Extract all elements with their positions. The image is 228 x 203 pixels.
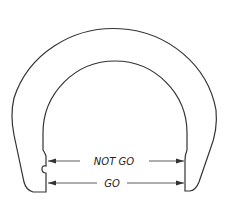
go-arrow-left xyxy=(48,181,56,186)
snap-gauge-diagram: NOT GO GO xyxy=(0,0,228,203)
not-go-arrow-left xyxy=(48,159,56,164)
not-go-arrow-right xyxy=(176,159,184,164)
go-arrow-right xyxy=(176,181,184,186)
go-label: GO xyxy=(104,178,120,189)
not-go-label: NOT GO xyxy=(94,156,134,167)
gauge-outline xyxy=(12,29,216,192)
